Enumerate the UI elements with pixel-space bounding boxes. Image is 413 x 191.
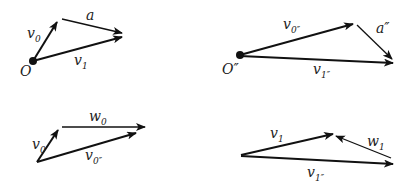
label-v1: v1 (270, 125, 284, 144)
label-v1pp: v1″ (313, 61, 331, 80)
label-v0pp: v0″ (85, 147, 103, 166)
origin-label: O″ (222, 61, 239, 77)
label-app: a″ (376, 20, 390, 36)
diagram-bottom-left: v0 w0 v0″ (32, 108, 145, 166)
diagram-top-left: O v0 a v1 (20, 7, 122, 79)
label-v0: v0 (27, 25, 41, 44)
diagram-bottom-right: v1 w1 v1″ (241, 125, 393, 183)
vector-v1pp (241, 156, 393, 164)
origin-label: O (20, 63, 32, 79)
vector-v1 (241, 134, 333, 155)
label-v0: v0 (32, 136, 46, 155)
vector-diagrams: O v0 a v1 O″ v0″ a″ v1″ v0 w0 v0″ v1 w1 … (0, 0, 413, 191)
label-a: a (86, 7, 94, 23)
label-v1: v1 (74, 52, 88, 71)
label-w0: w0 (89, 108, 107, 127)
diagram-top-right: O″ v0″ a″ v1″ (222, 16, 393, 80)
label-v1pp: v1″ (307, 164, 325, 183)
label-v0pp: v0″ (283, 16, 301, 35)
